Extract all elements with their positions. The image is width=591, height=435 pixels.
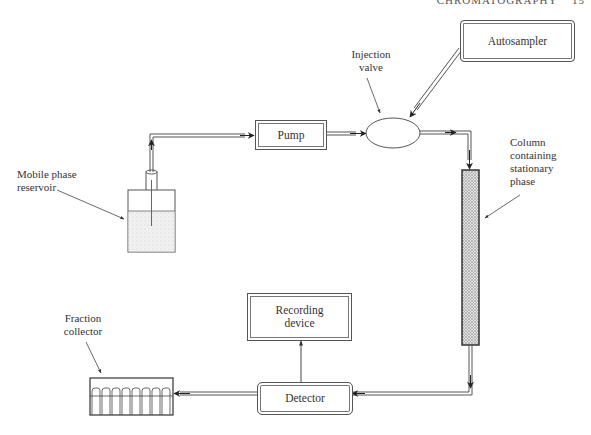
recording-device-label-line1: Recording — [276, 304, 324, 317]
reservoir-label: Mobile phase reservoir — [17, 168, 77, 194]
fraction-collector-pointer — [86, 342, 101, 373]
injection-valve-pointer — [367, 78, 380, 113]
column — [462, 170, 479, 345]
autosampler-label: Autosampler — [488, 35, 547, 48]
fraction-collector-label-line1: Fraction — [58, 312, 108, 325]
mobile-phase-reservoir — [128, 170, 175, 252]
line-detector-to-collector — [174, 392, 257, 395]
fraction-collector-label-line2: collector — [58, 325, 108, 338]
injection-valve-label-line2: valve — [344, 61, 398, 74]
detector-box: Detector — [257, 382, 353, 415]
column-label-line4: phase — [510, 175, 556, 188]
column-label-line1: Column — [510, 136, 556, 149]
detector-label: Detector — [285, 392, 325, 405]
injection-valve-label-line1: Injection — [344, 48, 398, 61]
line-pump-to-valve — [326, 132, 366, 135]
pump-box: Pump — [255, 120, 327, 150]
column-pointer — [485, 195, 520, 218]
recording-device-label-line2: device — [284, 317, 314, 330]
fraction-collector-label: Fraction collector — [58, 312, 108, 338]
injection-valve-ellipse — [366, 118, 420, 148]
line-reservoir-to-pump — [150, 134, 254, 172]
injection-valve-label: Injection valve — [344, 48, 398, 74]
autosampler-box: Autosampler — [460, 20, 575, 62]
column-label-line3: stationary — [510, 162, 556, 175]
column-label-line2: containing — [510, 149, 556, 162]
line-column-to-detector — [352, 345, 472, 395]
line-autosampler-to-valve — [410, 48, 462, 117]
reservoir-label-line1: Mobile phase — [17, 168, 77, 181]
reservoir-pointer — [57, 190, 124, 219]
reservoir-label-line2: reservoir — [17, 181, 77, 194]
fraction-collector — [90, 378, 173, 415]
pump-label: Pump — [278, 129, 305, 142]
recording-device-box: Recording device — [247, 293, 352, 341]
line-valve-to-column — [420, 131, 471, 169]
flow-diagram — [0, 0, 591, 435]
column-label: Column containing stationary phase — [510, 136, 556, 188]
